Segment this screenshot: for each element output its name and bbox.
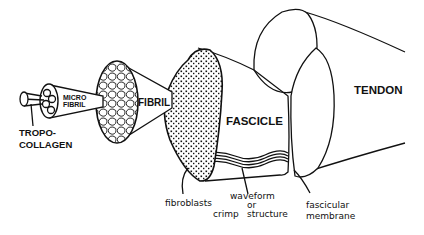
tropocollagen-end [20, 92, 28, 106]
tendon-hierarchy-diagram: TENDON FASCICLE FIBRIL MICRO FIBRIL [0, 0, 424, 235]
fibroblasts-pointer [182, 168, 188, 194]
fascicle-cross-section [164, 49, 222, 181]
fascicular-label-line1: fascicular [306, 200, 349, 210]
tendon-top-edge [305, 12, 405, 52]
fascicular-label-line2: membrane [306, 211, 356, 221]
crimp-label: crimp [213, 209, 239, 219]
fibril-group: FIBRIL [96, 61, 172, 143]
tropocollagen-label-line1: TROPO- [19, 127, 56, 138]
microfibril-label-line1: MICRO [63, 94, 87, 101]
tropocollagen-pointer [31, 104, 33, 126]
fibroblasts-label: fibroblasts [165, 198, 212, 208]
tropocollagen-label-line2: COLLAGEN [19, 139, 72, 150]
crimp-waveform [205, 151, 288, 168]
fibril-label: FIBRIL [138, 97, 170, 108]
structure-label: structure [247, 209, 288, 219]
microfibril-group: MICRO FIBRIL [40, 84, 103, 118]
tendon-label: TENDON [354, 84, 403, 96]
fascicle-label: FASCICLE [226, 115, 283, 127]
microfibril-label-line2: FIBRIL [63, 101, 86, 108]
